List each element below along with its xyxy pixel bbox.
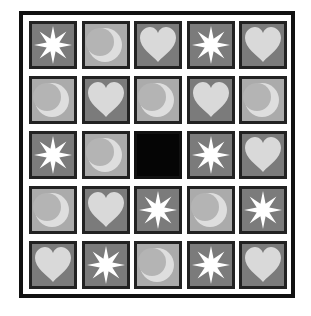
moon-icon xyxy=(86,135,126,175)
tile-star[interactable] xyxy=(134,186,182,234)
star-icon xyxy=(191,25,231,65)
moon-icon xyxy=(86,25,126,65)
heart-icon xyxy=(33,245,73,285)
tile-moon[interactable] xyxy=(134,76,182,124)
tile-heart[interactable] xyxy=(239,131,287,179)
star-icon xyxy=(33,135,73,175)
tile-star[interactable] xyxy=(239,186,287,234)
tile-star[interactable] xyxy=(29,131,77,179)
star-icon xyxy=(243,190,283,230)
star-icon xyxy=(138,190,178,230)
moon-icon xyxy=(138,80,178,120)
star-icon xyxy=(191,135,231,175)
tile-moon[interactable] xyxy=(239,76,287,124)
tile-star[interactable] xyxy=(82,241,130,289)
tile-heart[interactable] xyxy=(29,241,77,289)
heart-icon xyxy=(138,25,178,65)
heart-icon xyxy=(243,245,283,285)
tile-grid xyxy=(29,21,287,289)
tile-star[interactable] xyxy=(187,131,235,179)
tile-star[interactable] xyxy=(29,21,77,69)
heart-icon xyxy=(86,80,126,120)
tile-moon[interactable] xyxy=(82,21,130,69)
tile-heart[interactable] xyxy=(82,186,130,234)
moon-icon xyxy=(243,80,283,120)
tile-star[interactable] xyxy=(187,241,235,289)
tile-heart[interactable] xyxy=(82,76,130,124)
tile-moon[interactable] xyxy=(187,186,235,234)
star-icon xyxy=(33,25,73,65)
heart-icon xyxy=(243,25,283,65)
star-icon xyxy=(191,245,231,285)
tile-moon[interactable] xyxy=(29,76,77,124)
moon-icon xyxy=(33,80,73,120)
tile-heart[interactable] xyxy=(134,21,182,69)
tile-moon[interactable] xyxy=(29,186,77,234)
game-board xyxy=(19,11,295,298)
heart-icon xyxy=(86,190,126,230)
moon-icon xyxy=(138,245,178,285)
tile-moon[interactable] xyxy=(134,241,182,289)
moon-icon xyxy=(191,190,231,230)
empty-slot[interactable] xyxy=(134,131,182,179)
moon-icon xyxy=(33,190,73,230)
tile-star[interactable] xyxy=(187,21,235,69)
star-icon xyxy=(86,245,126,285)
heart-icon xyxy=(243,135,283,175)
tile-moon[interactable] xyxy=(82,131,130,179)
tile-heart[interactable] xyxy=(239,241,287,289)
heart-icon xyxy=(191,80,231,120)
tile-heart[interactable] xyxy=(239,21,287,69)
tile-heart[interactable] xyxy=(187,76,235,124)
